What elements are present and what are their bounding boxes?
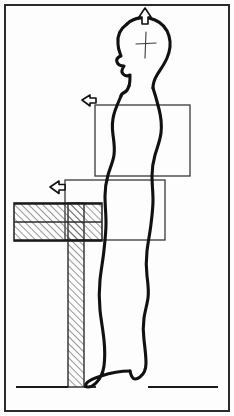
ergonomics-diagram bbox=[0, 0, 234, 416]
diagram-canvas bbox=[0, 0, 234, 416]
